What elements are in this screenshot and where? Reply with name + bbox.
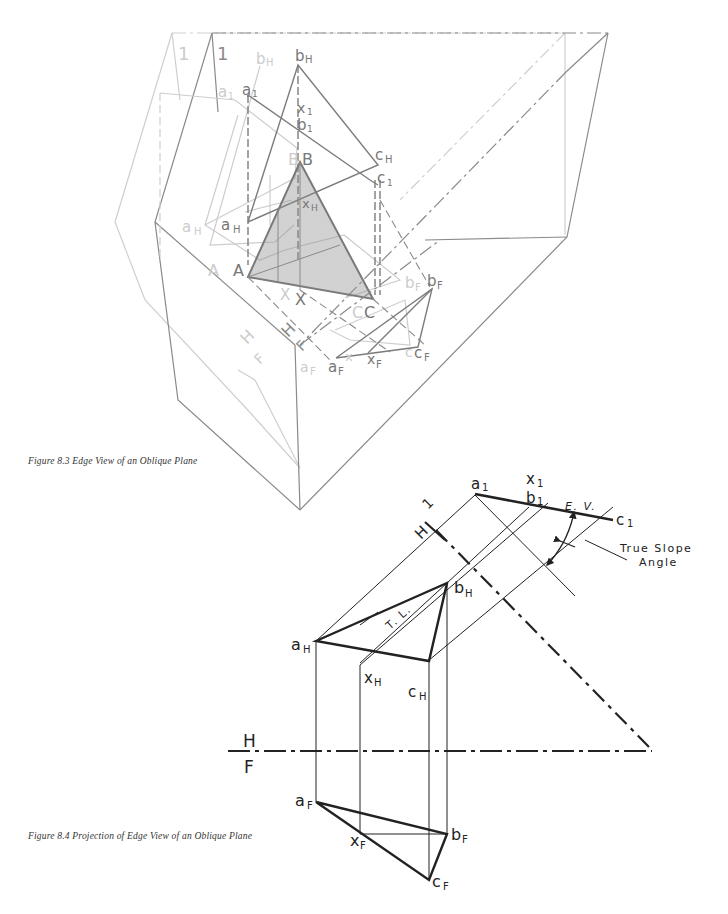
fold-label-H1-1: 1 xyxy=(419,494,437,512)
label-edge-view: E. V. xyxy=(565,500,596,513)
label-bF: b xyxy=(451,825,461,844)
label-aF: a xyxy=(295,791,305,810)
svg-text:F: F xyxy=(443,881,449,892)
svg-text:F: F xyxy=(338,366,344,377)
label-a1: a xyxy=(242,81,251,99)
svg-text:B: B xyxy=(288,150,299,169)
label-bH: b xyxy=(295,47,305,65)
shaded-plane-abc xyxy=(248,162,373,299)
svg-text:F: F xyxy=(251,350,268,367)
label-B: B xyxy=(302,150,313,169)
svg-text:1: 1 xyxy=(252,89,258,99)
svg-text:1: 1 xyxy=(627,518,633,529)
fold-label-H: H xyxy=(277,319,299,341)
svg-text:F: F xyxy=(376,359,382,370)
label-b1: b xyxy=(297,116,307,134)
label-X: X xyxy=(295,290,306,309)
label-b1: b xyxy=(526,489,536,507)
figure-8-3-caption: Figure 8.3 Edge View of an Oblique Plane xyxy=(28,456,197,466)
label-xH: x xyxy=(302,196,310,211)
svg-text:X: X xyxy=(280,286,290,304)
label-cF: c xyxy=(432,872,441,891)
svg-text:1: 1 xyxy=(228,91,234,101)
svg-text:1: 1 xyxy=(482,482,488,493)
label-a1: a xyxy=(471,475,480,493)
label-x1: x xyxy=(297,100,305,116)
svg-text:1: 1 xyxy=(537,478,543,489)
svg-text:F: F xyxy=(437,280,443,291)
svg-text:H: H xyxy=(465,588,473,599)
label-aH: a xyxy=(291,635,301,654)
label-bH: b xyxy=(454,578,464,597)
svg-text:H: H xyxy=(236,326,258,348)
label-true-slope: True Slope xyxy=(619,542,692,555)
label-xF: x xyxy=(367,351,375,367)
svg-text:F: F xyxy=(360,840,366,851)
svg-text:H: H xyxy=(303,644,311,655)
figure-8-3-labels: 1 1 b H b H a 1 a 1 x 1 b 1 c H c 1 B B … xyxy=(178,43,443,377)
label-cF: c xyxy=(414,344,422,362)
svg-text:H: H xyxy=(374,677,382,688)
svg-text:H: H xyxy=(266,57,274,68)
fold-label-hf-H: H xyxy=(243,731,256,751)
label-cH: c xyxy=(408,683,416,701)
label-aH: a xyxy=(221,216,230,234)
label-xH: x xyxy=(364,669,373,687)
label-x1: x xyxy=(526,470,535,488)
svg-text:1: 1 xyxy=(537,496,543,507)
label-cH: c xyxy=(375,146,383,164)
label-A: A xyxy=(233,261,244,280)
svg-text:F: F xyxy=(415,282,421,293)
label-xF: x xyxy=(350,831,359,850)
svg-text:1: 1 xyxy=(307,124,313,134)
label-C: C xyxy=(364,303,375,322)
svg-text:1: 1 xyxy=(387,178,393,188)
svg-text:F: F xyxy=(424,352,430,363)
svg-text:H: H xyxy=(419,691,427,702)
svg-text:a: a xyxy=(182,218,191,236)
true-length-line xyxy=(360,583,447,663)
svg-text:H: H xyxy=(194,226,202,237)
svg-text:a: a xyxy=(218,83,227,101)
svg-text:H: H xyxy=(311,203,318,213)
fold-label-hf-F: F xyxy=(244,757,254,777)
svg-text:x: x xyxy=(345,349,353,364)
svg-text:A: A xyxy=(208,261,219,280)
label-aF: a xyxy=(328,358,337,376)
label-c1: c xyxy=(377,169,385,187)
horizontal-view-triangle xyxy=(316,583,447,661)
svg-text:F: F xyxy=(462,834,468,845)
figure-8-4-drawing xyxy=(228,494,652,880)
label-c1: c xyxy=(616,511,624,529)
svg-text:1: 1 xyxy=(307,107,313,117)
front-view-triangle xyxy=(316,802,447,880)
svg-text:H: H xyxy=(233,224,241,235)
label-bF: b xyxy=(427,272,437,290)
svg-text:F: F xyxy=(310,366,316,377)
figure-8-4-labels: H 1 a 1 x 1 b 1 E. V. c 1 True Slope Ang… xyxy=(243,470,692,892)
svg-text:c: c xyxy=(405,344,413,360)
svg-text:a: a xyxy=(300,359,309,375)
svg-text:1: 1 xyxy=(178,43,189,64)
main-box-outline xyxy=(155,33,608,510)
svg-text:C: C xyxy=(352,303,363,322)
figure-8-3-drawing xyxy=(115,33,608,510)
svg-text:H: H xyxy=(385,154,393,165)
label-angle: Angle xyxy=(639,556,678,569)
svg-text:b: b xyxy=(405,274,415,292)
figure-8-4-caption: Figure 8.4 Projection of Edge View of an… xyxy=(28,831,252,841)
fold-label-1: 1 xyxy=(217,43,228,64)
svg-text:F: F xyxy=(307,800,313,811)
svg-text:H: H xyxy=(305,54,313,65)
svg-text:b: b xyxy=(256,50,266,68)
